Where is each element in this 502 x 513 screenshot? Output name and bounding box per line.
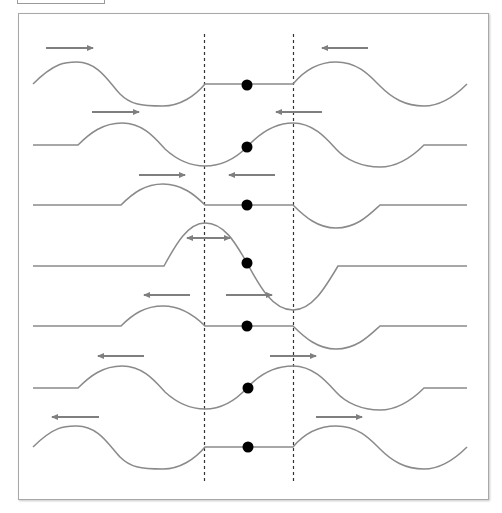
row6-dot <box>243 383 254 394</box>
row2-dot <box>242 142 253 153</box>
row1-dot <box>242 80 253 91</box>
center-point-dots <box>242 80 254 453</box>
row4-dot <box>242 258 253 269</box>
direction-arrows <box>46 48 368 417</box>
wave-superposition-diagram <box>0 0 502 513</box>
row3-dot <box>242 200 253 211</box>
row5-dot <box>242 321 253 332</box>
row7-dot <box>243 442 254 453</box>
